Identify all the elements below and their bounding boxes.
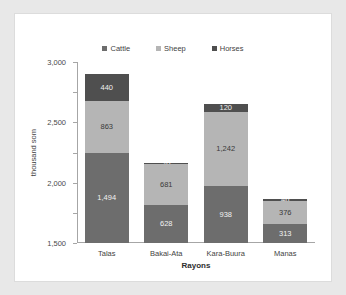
bar-value-label: 1,242	[216, 145, 235, 153]
y-axis-tick-label: 2,500	[47, 118, 66, 127]
bar-segment-cattle[interactable]: 628	[144, 205, 188, 243]
bar-value-label: 938	[219, 211, 232, 219]
bar-value-label: 440	[100, 84, 113, 92]
bar-value-label: 376	[279, 209, 292, 217]
bar-segment-cattle[interactable]: 938	[204, 186, 248, 243]
y-axis-tick: 0	[73, 243, 77, 244]
legend-label-sheep: Sheep	[164, 44, 186, 53]
x-axis-category-label: Bakai-Ata	[150, 249, 183, 258]
legend-item-cattle: Cattle	[102, 44, 130, 53]
legend-item-sheep: Sheep	[156, 44, 186, 53]
bar-segment-horses[interactable]: 440	[85, 74, 129, 101]
y-axis-tick: 2,500	[73, 92, 77, 93]
bar-segment-cattle[interactable]: 1,494	[85, 153, 129, 243]
bar-segment-sheep[interactable]: 376	[263, 201, 307, 224]
bar-value-label: 120	[219, 104, 232, 111]
y-axis-title: thousand som	[29, 62, 38, 243]
legend-label-cattle: Cattle	[110, 44, 130, 53]
bar-value-label: 1,494	[97, 194, 116, 202]
bar-value-label: 681	[160, 181, 173, 189]
legend-swatch-cattle	[102, 46, 107, 51]
y-axis-tick: 500	[73, 213, 77, 214]
bar-segment-horses[interactable]: 120	[204, 104, 248, 111]
y-axis-tick: 2,000	[73, 122, 77, 123]
chart-panel: Cattle Sheep Horses thousand som 05001,0…	[14, 13, 332, 282]
y-axis-tick-label: 2,000	[47, 178, 66, 187]
legend-item-horses: Horses	[212, 44, 244, 53]
y-axis-tick: 1,500	[73, 153, 77, 154]
bar-stack[interactable]: 20681628Bakai-Ata	[144, 163, 188, 243]
bar-stack[interactable]: 46376313Manas	[263, 199, 307, 243]
y-axis-tick-label: 1,500	[47, 239, 66, 248]
bar-stack[interactable]: 4408631,494Talas	[85, 74, 129, 243]
bar-segment-sheep[interactable]: 863	[85, 101, 129, 153]
plot-area: 05001,0001,5002,0002,5003,000 4408631,49…	[77, 62, 315, 243]
bar-value-label: 863	[100, 123, 113, 131]
bar-stack[interactable]: 1201,242938Kara-Buura	[204, 104, 248, 243]
bar-segment-sheep[interactable]: 1,242	[204, 112, 248, 187]
y-axis-tick: 3,000	[73, 62, 77, 63]
bar-segment-cattle[interactable]: 313	[263, 224, 307, 243]
y-axis-tick: 1,000	[73, 183, 77, 184]
bar-value-label: 313	[279, 230, 292, 238]
y-axis-tick-label: 3,000	[47, 58, 66, 67]
x-axis-title: Rayons	[77, 261, 315, 270]
x-axis-category-label: Kara-Buura	[207, 249, 245, 258]
legend-label-horses: Horses	[220, 44, 244, 53]
x-axis-category-label: Talas	[98, 249, 116, 258]
legend-swatch-sheep	[156, 46, 161, 51]
chart-legend: Cattle Sheep Horses	[15, 44, 331, 53]
x-axis-category-label: Manas	[274, 249, 297, 258]
bar-segment-sheep[interactable]: 681	[144, 164, 188, 205]
legend-swatch-horses	[212, 46, 217, 51]
y-axis-line	[77, 62, 78, 243]
bar-value-label: 628	[160, 220, 173, 228]
